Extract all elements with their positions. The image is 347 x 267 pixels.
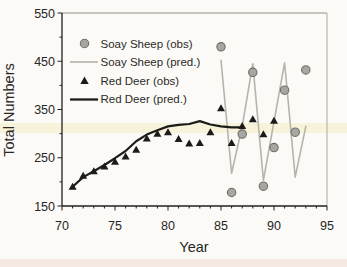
x-axis-title: Year (179, 239, 208, 255)
red-deer-obs-point (270, 117, 278, 124)
chart-legend: Soay Sheep (obs) Soay Sheep (pred.) Red … (70, 38, 200, 106)
y-axis-title: Total Numbers (1, 63, 17, 156)
x-tick-label: 90 (267, 219, 281, 233)
x-tick-label: 70 (55, 219, 69, 233)
y-tick-label: 550 (34, 7, 55, 21)
soay-sheep-obs-point (238, 130, 246, 138)
x-tick-label: 80 (161, 219, 175, 233)
x-tick-label: 75 (108, 219, 122, 233)
population-figure: 707580859095150250350450550 Soay Sheep (… (0, 0, 347, 267)
red-deer-obs-point (249, 115, 257, 122)
red-deer-obs-point (238, 122, 246, 129)
red-deer-obs-point (259, 130, 267, 137)
x-tick-label: 85 (214, 219, 228, 233)
soay-sheep-obs-point (249, 68, 257, 76)
population-chart: 707580859095150250350450550 Soay Sheep (… (0, 0, 347, 267)
red-deer-obs-point (164, 128, 172, 135)
y-tick-label: 250 (34, 151, 55, 165)
x-tick-label: 95 (320, 219, 334, 233)
soay-sheep-obs-point (291, 128, 299, 136)
legend-label-soay-pred: Soay Sheep (pred.) (101, 56, 201, 68)
soay-sheep-obs-point (217, 43, 225, 51)
red-deer-obs-point (185, 139, 193, 146)
y-tick-label: 350 (34, 103, 55, 117)
legend-label-soay-obs: Soay Sheep (obs) (101, 38, 193, 50)
red-deer-obs-point (132, 146, 140, 153)
y-tick-label: 450 (34, 55, 55, 69)
red-deer-obs-marker-icon (80, 77, 88, 84)
soay-sheep-obs-marker-icon (80, 39, 88, 47)
soay-sheep-pred-line (221, 60, 306, 180)
red-deer-obs-point (206, 128, 214, 135)
soay-sheep-obs-point (302, 66, 310, 74)
legend-label-deer-pred: Red Deer (pred.) (101, 93, 187, 105)
y-tick-label: 150 (34, 200, 55, 214)
soay-sheep-obs-point (280, 86, 288, 94)
soay-sheep-obs-point (259, 182, 267, 190)
red-deer-obs-point (175, 135, 183, 142)
red-deer-obs-point (217, 104, 225, 111)
legend-label-deer-obs: Red Deer (obs) (101, 75, 180, 87)
soay-sheep-obs-point (270, 143, 278, 151)
soay-sheep-obs-point (227, 188, 235, 196)
red-deer-obs-point (196, 139, 204, 146)
